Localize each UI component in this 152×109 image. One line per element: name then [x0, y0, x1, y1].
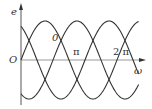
- x-axis-label: ω: [134, 66, 142, 76]
- y-axis-label: e: [11, 7, 17, 17]
- zero-annotation: 0: [52, 33, 58, 43]
- y-axis-arrow-icon: [19, 3, 23, 10]
- x-axis-arrow-icon: [139, 58, 146, 62]
- two-pi-tick-label: 2 π: [113, 47, 129, 57]
- three-phase-emf-chart: e O 0 π 2 π ω: [0, 0, 152, 109]
- origin-label: O: [9, 55, 17, 65]
- pi-tick-label: π: [73, 47, 80, 57]
